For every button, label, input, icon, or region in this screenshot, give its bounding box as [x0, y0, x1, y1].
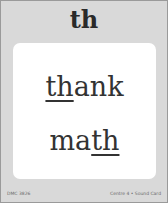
card-footer: DMC 3826 Centre 4 • Sound Card — [7, 191, 161, 199]
highlighted-sound: th — [45, 71, 73, 102]
word-prefix: ma — [50, 125, 92, 156]
footer-label: Centre 4 • Sound Card — [110, 191, 161, 196]
sound-card: th thank math DMC 3826 Centre 4 • Sound … — [0, 0, 168, 203]
highlighted-sound: th — [91, 125, 119, 156]
word-math: math — [13, 125, 156, 157]
footer-code: DMC 3826 — [7, 191, 30, 196]
word-thank: thank — [13, 71, 156, 103]
word-panel: thank math — [13, 43, 156, 179]
word-suffix: ank — [74, 71, 124, 102]
card-header-sound: th — [1, 5, 167, 35]
